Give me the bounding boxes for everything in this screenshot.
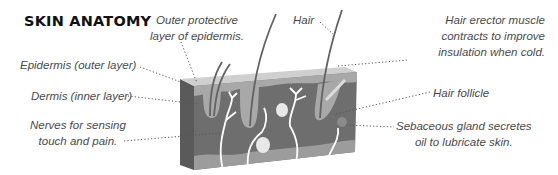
label-nerves: Nerves for sensing touch and pain.: [30, 117, 126, 149]
gland-1: [256, 137, 270, 153]
label-hair-follicle: Hair follicle: [433, 85, 489, 101]
label-sebaceous-gland: Sebaceous gland secretes oil to lubricat…: [396, 118, 532, 150]
label-hair: Hair: [293, 12, 314, 28]
block-side-face: [180, 79, 194, 170]
label-outer-protective: Outer protective layer of epidermis.: [150, 12, 244, 44]
gland-2: [276, 103, 288, 117]
label-hair-erector-muscle: Hair erector muscle contracts to improve…: [438, 12, 545, 60]
label-dermis: Dermis (inner layer): [31, 88, 132, 104]
label-epidermis: Epidermis (outer layer): [20, 57, 136, 73]
sebaceous-gland: [337, 117, 347, 127]
